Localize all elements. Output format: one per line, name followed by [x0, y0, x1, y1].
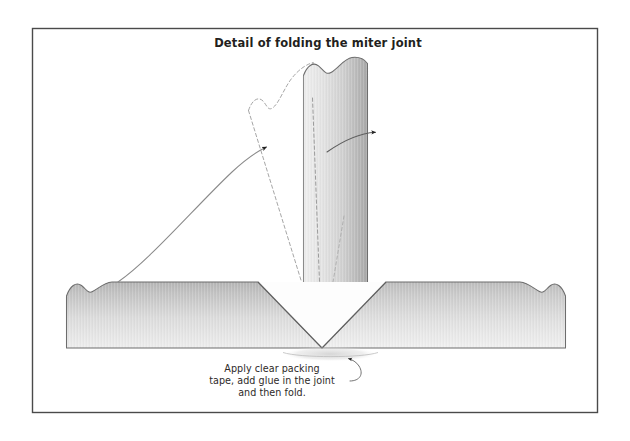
figure-root: Detail of folding the miter joint [0, 0, 630, 441]
figure-title: Detail of folding the miter joint [214, 36, 422, 50]
caption-line-1: Apply clear packing [224, 363, 319, 374]
miter-joint-illustration: Detail of folding the miter joint [0, 0, 630, 441]
glue-tape-highlight [282, 347, 378, 362]
caption-line-3: and then fold. [238, 387, 306, 398]
caption-line-2: tape, add glue in the joint [209, 375, 335, 386]
